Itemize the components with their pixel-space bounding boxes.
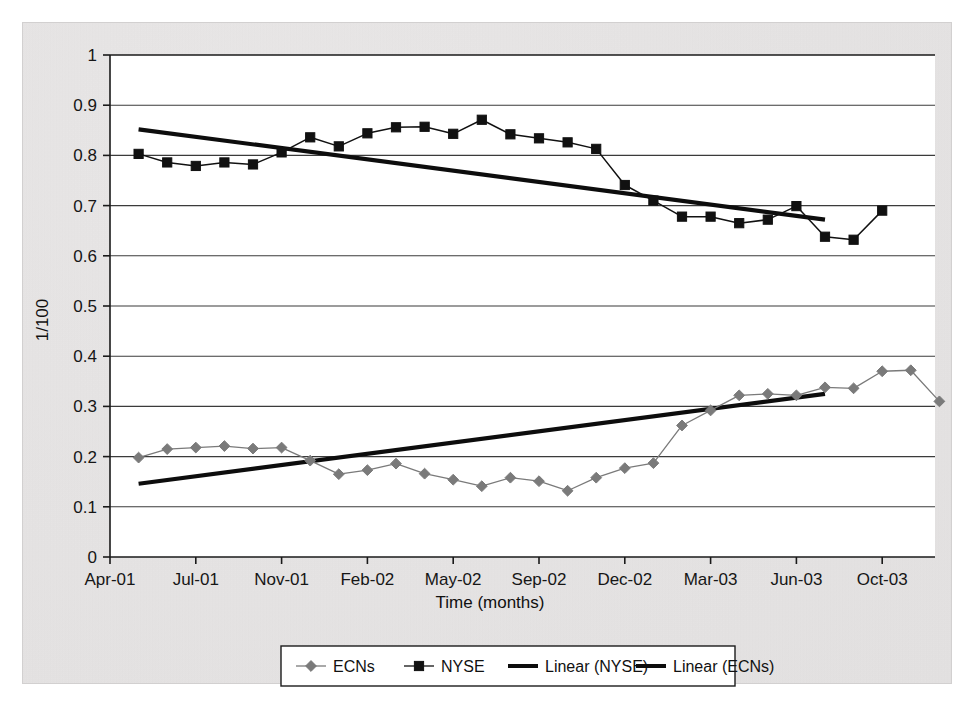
data-point-marker [735, 219, 744, 228]
data-point-marker [363, 129, 372, 138]
chart-legend: ECNsNYSELinear (NYSE)Linear (ECNs) [281, 646, 774, 686]
data-point-marker [649, 196, 658, 205]
y-tick-label: 0.1 [73, 498, 97, 517]
data-point-marker [763, 215, 772, 224]
legend-label: ECNs [333, 658, 375, 675]
y-tick-label: 0.4 [73, 347, 97, 366]
y-tick-label: 0.9 [73, 96, 97, 115]
data-point-marker [449, 129, 458, 138]
data-point-marker [849, 235, 858, 244]
data-point-marker [677, 212, 686, 221]
x-tick-label: Apr-01 [84, 570, 135, 589]
y-axis-title: 1/100 [33, 299, 52, 342]
legend-label: Linear (ECNs) [673, 658, 774, 675]
x-tick-label: Jul-01 [173, 570, 219, 589]
y-tick-label: 1 [88, 46, 97, 65]
x-tick-label: May-02 [425, 570, 482, 589]
data-point-marker [592, 144, 601, 153]
legend-label: NYSE [441, 658, 485, 675]
data-point-marker [248, 160, 257, 169]
data-point-marker [277, 148, 286, 157]
line-chart: 10.90.80.70.60.50.40.30.20.10 Apr-01Jul-… [0, 0, 972, 721]
y-tick-label: 0.8 [73, 146, 97, 165]
x-tick-label: Feb-02 [340, 570, 394, 589]
x-tick-label: Sep-02 [512, 570, 567, 589]
x-tick-label: Mar-03 [684, 570, 738, 589]
x-tick-label: Nov-01 [254, 570, 309, 589]
y-axis-ticks: 10.90.80.70.60.50.40.30.20.10 [73, 46, 110, 567]
x-axis-ticks: Apr-01Jul-01Nov-01Feb-02May-02Sep-02Dec-… [84, 557, 907, 589]
x-tick-label: Dec-02 [597, 570, 652, 589]
data-point-marker [163, 158, 172, 167]
legend-label: Linear (NYSE) [545, 658, 648, 675]
x-tick-label: Oct-03 [857, 570, 908, 589]
y-tick-label: 0.7 [73, 197, 97, 216]
data-point-marker [414, 661, 423, 670]
data-point-marker [191, 161, 200, 170]
data-point-marker [334, 142, 343, 151]
data-point-marker [534, 134, 543, 143]
data-point-marker [792, 202, 801, 211]
chart-figure: 10.90.80.70.60.50.40.30.20.10 Apr-01Jul-… [0, 0, 972, 721]
data-point-marker [620, 180, 629, 189]
y-tick-label: 0.6 [73, 247, 97, 266]
data-point-marker [820, 232, 829, 241]
y-tick-label: 0 [88, 548, 97, 567]
data-point-marker [306, 133, 315, 142]
x-axis-title: Time (months) [436, 593, 545, 612]
y-tick-label: 0.5 [73, 297, 97, 316]
data-point-marker [420, 122, 429, 131]
x-tick-label: Jun-03 [770, 570, 822, 589]
data-point-marker [134, 149, 143, 158]
data-point-marker [477, 115, 486, 124]
data-point-marker [563, 138, 572, 147]
y-tick-label: 0.2 [73, 448, 97, 467]
data-point-marker [391, 123, 400, 132]
y-tick-label: 0.3 [73, 397, 97, 416]
data-point-marker [506, 130, 515, 139]
data-point-marker [220, 158, 229, 167]
data-point-marker [706, 212, 715, 221]
data-point-marker [878, 206, 887, 215]
